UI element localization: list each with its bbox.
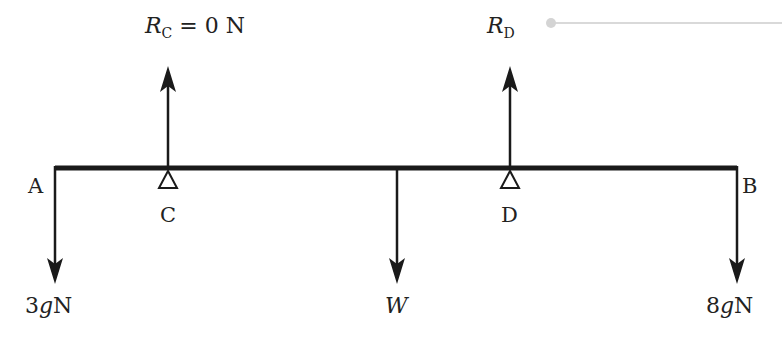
beam-diagram: A B C D RC = 0 N RD 3gN W 8gN [0, 0, 782, 355]
load-label-w: W [385, 293, 410, 318]
reaction-label-d: RD [486, 13, 515, 41]
load-arrow-w [389, 168, 405, 284]
load-label-b: 8gN [706, 293, 753, 318]
support-triangle-d [501, 171, 519, 188]
label-b: B [742, 174, 757, 198]
reaction-arrow-c [160, 66, 176, 166]
reaction-label-c: RC = 0 N [144, 13, 245, 41]
label-d: D [501, 203, 518, 227]
load-label-a: 3gN [25, 293, 72, 318]
label-a: A [27, 174, 44, 198]
support-triangle-c [159, 171, 177, 188]
load-arrow-a [47, 166, 63, 284]
label-c: C [160, 203, 176, 227]
faint-guide-line [546, 18, 782, 28]
reaction-arrow-d [502, 66, 518, 166]
